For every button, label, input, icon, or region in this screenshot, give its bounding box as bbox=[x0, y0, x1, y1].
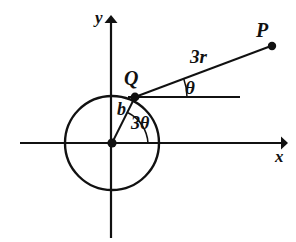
geometry-diagram: P Q 3r θ b 3θ x y bbox=[0, 0, 296, 242]
label-axis-x: x bbox=[275, 148, 284, 165]
label-angle-theta: θ bbox=[185, 78, 195, 97]
point-origin bbox=[107, 138, 116, 147]
label-segment-3r: 3r bbox=[190, 47, 207, 66]
label-radius-b: b bbox=[117, 100, 126, 118]
y-axis bbox=[105, 15, 118, 238]
label-axis-y: y bbox=[95, 9, 103, 26]
label-point-p: P bbox=[256, 20, 268, 40]
y-axis-arrowhead bbox=[105, 15, 118, 23]
label-point-q: Q bbox=[124, 68, 138, 88]
point-q-marker bbox=[131, 93, 140, 102]
label-angle-3theta: 3θ bbox=[131, 114, 149, 132]
x-axis bbox=[20, 137, 288, 150]
point-p-marker bbox=[268, 42, 276, 50]
